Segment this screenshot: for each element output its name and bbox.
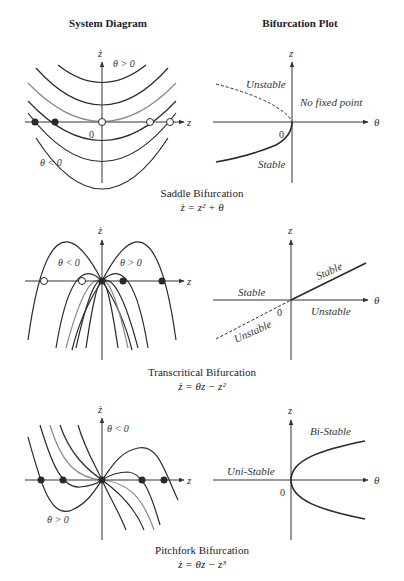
unstable-fixed-point (41, 278, 48, 285)
region-label-theta-pos: θ > 0 (113, 58, 135, 69)
unstable-label-left: Unstable (232, 318, 273, 345)
origin-label: 0 (89, 129, 94, 140)
theta-axis-label: θ (374, 474, 380, 486)
stable-label-left: Stable (238, 286, 266, 298)
stable-fixed-point (159, 278, 166, 285)
stable-fixed-point (99, 477, 106, 484)
pitchfork-bifurcation-plot: z θ 0 Uni-Stable Bi-Stable (213, 404, 380, 540)
transcritical-system-diagram: ż z θ < 0 θ > 0 (25, 224, 192, 360)
region-label-theta-pos: θ > 0 (120, 257, 142, 268)
saddle-bifurcation-plot: z θ 0 Unstable No fixed point Stable (213, 47, 380, 183)
pitchfork-equation: ż = θz − z³ (0, 557, 404, 571)
region-label-theta-pos: θ > 0 (47, 514, 69, 525)
stable-branch (216, 122, 292, 162)
z-axis-label: z (186, 275, 192, 287)
stable-fixed-point (99, 278, 106, 285)
region-label-theta-neg: θ < 0 (40, 157, 62, 168)
zdot-axis-label: ż (97, 224, 103, 236)
stable-fixed-point (139, 477, 146, 484)
zdot-axis-label: ż (97, 47, 103, 59)
pitchfork-caption: Pitchfork Bifurcation ż = θz − z³ (0, 543, 404, 571)
bi-stable-label: Bi-Stable (310, 425, 351, 437)
stable-fixed-point (38, 477, 45, 484)
z-axis-label: z (186, 474, 192, 486)
origin-label: 0 (277, 307, 282, 318)
unstable-label: Unstable (246, 78, 286, 90)
uni-stable-label: Uni-Stable (227, 465, 275, 477)
saddle-system-diagram: ż z 0 θ > 0 θ < 0 (25, 47, 192, 189)
unstable-fixed-point (79, 278, 86, 285)
pitchfork-system-diagram: ż z θ < 0 θ > 0 (25, 403, 192, 540)
stable-branch-upper (291, 441, 365, 480)
stable-label-right: Stable (314, 260, 344, 282)
saddle-caption: Saddle Bifurcation ż = z² + θ (0, 186, 404, 214)
curve-theta-pos-large (28, 437, 178, 512)
transcritical-bifurcation-plot: z θ 0 Stable Unstable Stable Unstable (213, 224, 380, 360)
theta-axis-label: θ (374, 294, 380, 306)
transcritical-caption: Transcritical Bifurcation ż = θz − z² (0, 365, 404, 393)
region-label-theta-neg: θ < 0 (58, 257, 80, 268)
theta-axis-label: θ (374, 116, 380, 128)
stable-label: Stable (258, 158, 286, 170)
z-axis-label: z (287, 404, 293, 416)
saddle-title: Saddle Bifurcation (0, 186, 404, 200)
origin-label: 0 (280, 487, 285, 498)
semistable-fixed-point (99, 119, 106, 126)
saddle-equation: ż = z² + θ (0, 200, 404, 214)
z-axis-label: z (287, 224, 293, 236)
unstable-label-right: Unstable (311, 305, 351, 317)
stable-fixed-point (60, 477, 67, 484)
figure-canvas: ż z 0 θ > 0 θ < 0 z θ 0 Unstable No fixe… (0, 0, 404, 581)
transcritical-equation: ż = θz − z² (0, 379, 404, 393)
no-fixed-point-label: No fixed point (299, 96, 363, 108)
zdot-axis-label: ż (97, 403, 103, 415)
stable-branch-lower (291, 480, 365, 519)
stable-fixed-point (52, 119, 59, 126)
transcritical-title: Transcritical Bifurcation (0, 365, 404, 379)
unstable-fixed-point (167, 119, 174, 126)
stable-fixed-point (120, 278, 127, 285)
z-axis-label: z (186, 116, 192, 128)
pitchfork-title: Pitchfork Bifurcation (0, 543, 404, 557)
stable-fixed-point (32, 119, 39, 126)
unstable-fixed-point (147, 119, 154, 126)
region-label-theta-neg: θ < 0 (107, 423, 129, 434)
z-axis-label: z (288, 47, 294, 59)
stable-fixed-point (161, 477, 168, 484)
origin-label: 0 (279, 129, 284, 140)
